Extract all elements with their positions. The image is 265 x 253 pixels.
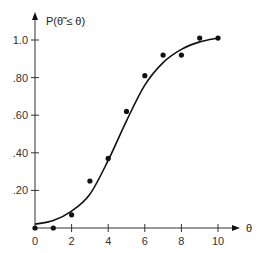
y-tick-label: 1.0: [13, 34, 28, 46]
cdf-chart: 0246810.20.40.60.801.0 P(θ̃ ≤ θ) θ: [0, 0, 265, 253]
data-point: [106, 156, 111, 161]
data-point: [69, 212, 74, 217]
y-tick-label: .40: [13, 147, 28, 159]
x-tick-label: 8: [178, 235, 184, 247]
axes: 0246810.20.40.60.801.0: [13, 12, 240, 247]
data-point: [32, 225, 37, 230]
fitted-curve: [35, 38, 218, 224]
x-tick-label: 0: [32, 235, 38, 247]
x-tick-label: 4: [105, 235, 111, 247]
data-point: [161, 52, 166, 57]
data-point: [215, 36, 220, 41]
data-points: [32, 36, 220, 231]
cdf-curve: [35, 38, 218, 224]
x-tick-label: 6: [142, 235, 148, 247]
x-axis-title: θ: [246, 222, 252, 234]
x-tick-label: 2: [69, 235, 75, 247]
y-axis-arrow-icon: [32, 12, 38, 20]
data-point: [124, 109, 129, 114]
data-point: [87, 178, 92, 183]
x-tick-label: 10: [212, 235, 224, 247]
x-axis-arrow-icon: [232, 225, 240, 231]
y-tick-label: .20: [13, 184, 28, 196]
y-tick-label: .80: [13, 72, 28, 84]
y-tick-label: .60: [13, 109, 28, 121]
y-axis-title: P(θ̃ ≤ θ): [46, 15, 85, 27]
data-point: [179, 52, 184, 57]
data-point: [142, 73, 147, 78]
data-point: [51, 225, 56, 230]
data-point: [197, 36, 202, 41]
